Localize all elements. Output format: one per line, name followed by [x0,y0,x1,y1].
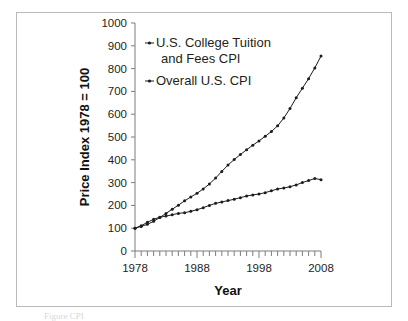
y-tick-label: 500 [108,131,127,143]
legend-entry-tuition: U.S. College Tuition and Fees CPI [145,35,271,66]
x-tick-label: 1998 [246,262,272,274]
y-tick-label: 100 [108,222,127,234]
caption-fragment: Figure CPI [44,311,84,321]
y-tick-label: 900 [108,40,127,52]
y-axis-tick-labels: 01002003004005006007008009001000 [101,17,127,257]
figure-frame: 01002003004005006007008009001000 1978198… [16,12,392,307]
y-tick-label: 700 [108,85,127,97]
y-tick-label: 200 [108,199,127,211]
y-tick-label: 0 [121,245,127,257]
legend-dot-marker-tuition [148,41,151,44]
x-axis-minor-tick-marks [135,251,321,258]
y-axis: 01002003004005006007008009001000 [101,17,135,257]
legend-label-tuition-line2: and Fees CPI [161,51,241,66]
chart-legend: U.S. College Tuition and Fees CPI Overal… [145,35,271,88]
x-tick-label: 2008 [308,262,334,274]
y-axis-tick-marks [131,23,135,251]
y-tick-label: 1000 [101,17,127,29]
legend-dot-marker-overall [148,79,151,82]
legend-entry-overall: Overall U.S. CPI [145,73,251,88]
legend-label-tuition-line1: U.S. College Tuition [156,35,271,50]
x-axis-tick-labels: 1978198819982008 [122,262,334,274]
y-tick-label: 400 [108,154,127,166]
chart-plot-area: 01002003004005006007008009001000 1978198… [17,13,393,308]
y-tick-label: 800 [108,63,127,75]
x-axis: 1978198819982008 [122,251,334,274]
y-tick-label: 300 [108,177,127,189]
x-axis-title: Year [214,283,241,298]
x-tick-label: 1978 [122,262,148,274]
legend-label-overall-line1: Overall U.S. CPI [156,73,251,88]
line-chart: 01002003004005006007008009001000 1978198… [17,13,393,308]
y-axis-title: Price Index 1978 = 100 [77,68,92,206]
y-tick-label: 600 [108,108,127,120]
series-overall-cpi [134,177,323,230]
x-tick-label: 1988 [184,262,210,274]
